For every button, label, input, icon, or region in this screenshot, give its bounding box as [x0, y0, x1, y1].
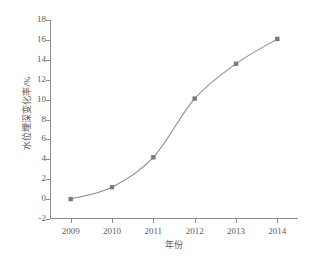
y-tick-label: -2: [39, 213, 47, 223]
x-tick-label: 2014: [263, 226, 291, 236]
y-tick-label: 18: [37, 14, 46, 24]
y-tick-label: 8: [42, 114, 47, 124]
x-tick-label: 2009: [57, 226, 85, 236]
series-water-level-change-rate: [50, 20, 298, 219]
x-tick-label: 2011: [139, 226, 167, 236]
x-axis-title: 年份: [50, 238, 298, 251]
data-point-2013: [234, 62, 238, 66]
chart-figure: 水位埋深变化率/% 18 16 14 12 10 8: [0, 0, 314, 269]
y-tick-label: 12: [37, 74, 46, 84]
data-point-2011: [151, 155, 155, 159]
y-tick-label: 14: [37, 54, 46, 64]
y-tick-label: 6: [42, 133, 47, 143]
y-axis-title: 水位埋深变化率/%: [22, 48, 32, 178]
series-line: [71, 39, 278, 199]
plot-area: 18 16 14 12 10 8 6 4: [50, 20, 298, 219]
data-point-2012: [192, 96, 196, 100]
data-point-2009: [68, 197, 72, 201]
series-markers: [68, 37, 279, 202]
y-tick-label: 16: [37, 34, 46, 44]
y-tick-label: 0: [42, 193, 47, 203]
x-tick-label: 2012: [181, 226, 209, 236]
y-tick-label: 10: [37, 94, 46, 104]
data-point-2010: [110, 185, 114, 189]
x-tick-label: 2013: [222, 226, 250, 236]
y-tick-label: 4: [42, 153, 47, 163]
x-tick-label: 2010: [98, 226, 126, 236]
y-tick-label: 2: [42, 173, 47, 183]
data-point-2014: [275, 37, 279, 41]
